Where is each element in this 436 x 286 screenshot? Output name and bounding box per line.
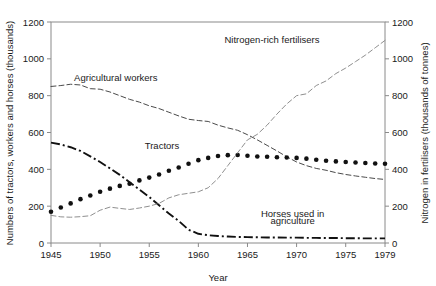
y-tick-label-left: 1200 [23,17,44,28]
y-tick-label-left: 1000 [23,53,44,64]
line-chart: 19451950195519601965197019751979 0200400… [0,0,436,286]
x-tick-label: 1950 [90,249,111,260]
chart-container: 19451950195519601965197019751979 0200400… [0,0,436,286]
x-tick-label: 1965 [237,249,258,260]
y-tick-label-right: 200 [392,201,408,212]
y-axis-left-title: Numbers of tractors, workers and horses … [4,21,15,245]
y-tick-label-left: 600 [28,127,44,138]
y-tick-label-right: 800 [392,90,408,101]
x-axis-title: Year [208,272,227,283]
y-tick-label-left: 200 [28,201,44,212]
annotation-tractors: Tractors [145,140,180,151]
x-tick-label: 1960 [188,249,209,260]
y-tick-label-right: 600 [392,127,408,138]
y-tick-label-right: 1000 [392,53,413,64]
y-tick-label-right: 0 [392,238,397,249]
annotation-agricultural-workers: Agricultural workers [74,72,158,83]
y-tick-label-left: 400 [28,164,44,175]
x-tick-label: 1955 [139,249,160,260]
x-tick-label: 1970 [286,249,307,260]
y-tick-label-right: 1200 [392,17,413,28]
x-tick-label: 1975 [335,249,356,260]
annotation-nitrogen-rich-fertilisers: Nitrogen-rich fertilisers [225,34,320,45]
y-tick-label-left: 0 [39,238,44,249]
y-tick-label-left: 800 [28,90,44,101]
x-tick-label: 1945 [40,249,61,260]
x-tick-label: 1979 [374,249,395,260]
y-tick-label-right: 400 [392,164,408,175]
y-axis-right-title: Nitrogen in fertilisers (thousands of to… [419,42,430,223]
annotation-horses-line2: agriculture [270,215,314,226]
